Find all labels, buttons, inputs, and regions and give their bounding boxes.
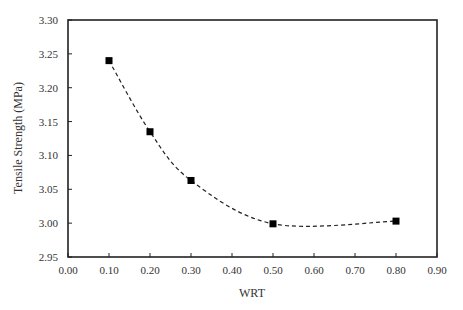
series-trend-line [109,61,396,227]
y-tick-label: 3.10 [39,149,59,161]
y-tick-label: 3.15 [39,116,59,128]
y-axis-label: Tensile Strength (MPa) [11,82,25,194]
axis-ticks [68,20,437,257]
data-point-marker [188,177,195,184]
x-tick-label: 0.90 [427,264,447,276]
chart: 2.953.003.053.103.153.203.253.30 0.000.1… [0,0,463,310]
y-tick-label: 3.25 [39,48,59,60]
data-point-marker [106,57,113,64]
x-tick-label: 0.80 [386,264,406,276]
y-tick-label: 3.05 [39,183,59,195]
x-tick-label: 0.20 [140,264,160,276]
x-tick-label: 0.60 [304,264,324,276]
y-tick-label: 3.20 [39,82,59,94]
x-tick-label: 0.30 [181,264,201,276]
data-point-marker [270,220,277,227]
plot-area-frame [68,20,437,257]
data-point-marker [147,128,154,135]
y-axis-tick-labels: 2.953.003.053.103.153.203.253.30 [39,14,59,263]
y-tick-label: 2.95 [39,251,59,263]
series-markers [106,57,400,227]
x-tick-label: 0.10 [99,264,119,276]
data-point-marker [393,218,400,225]
x-axis-label: WRT [239,286,266,300]
x-tick-label: 0.00 [58,264,78,276]
x-tick-label: 0.70 [345,264,365,276]
y-tick-label: 3.30 [39,14,59,26]
y-tick-label: 3.00 [39,217,59,229]
x-tick-label: 0.40 [222,264,242,276]
chart-canvas: 2.953.003.053.103.153.203.253.30 0.000.1… [0,0,463,310]
x-tick-label: 0.50 [263,264,283,276]
x-axis-tick-labels: 0.000.100.200.300.400.500.600.700.800.90 [58,264,447,276]
